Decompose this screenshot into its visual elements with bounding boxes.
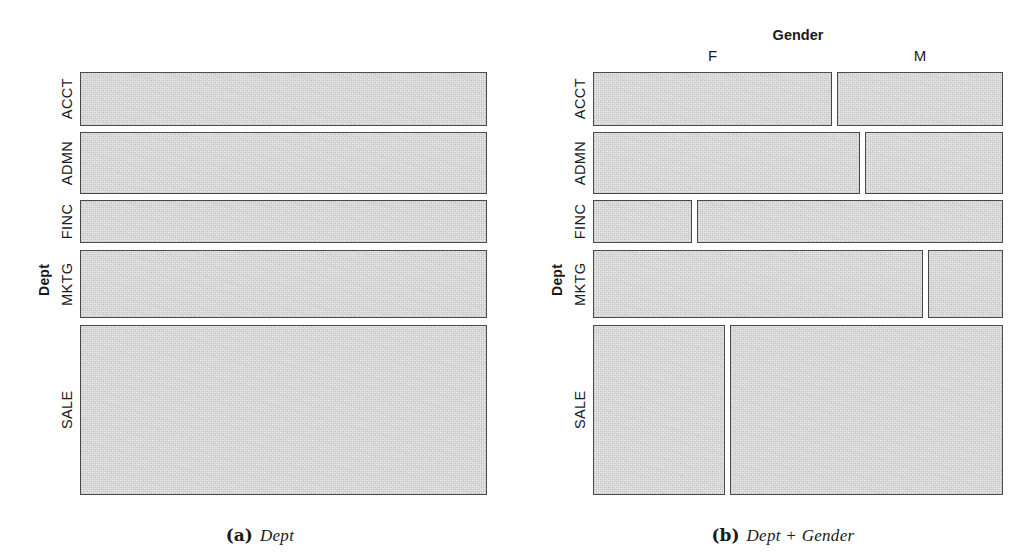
mosaic-tile-acct bbox=[80, 72, 487, 126]
mosaic-tile-admn bbox=[80, 132, 487, 194]
caption-text-a: Dept bbox=[253, 526, 294, 545]
panel-dept: Dept (a)Dept ACCTADMNFINCMKTGSALE bbox=[20, 0, 500, 556]
x-tick-m: M bbox=[900, 47, 940, 64]
y-tick-sale: SALE bbox=[58, 325, 76, 495]
caption-tag-b: (b) bbox=[712, 525, 740, 545]
mosaic-row-acct bbox=[80, 72, 487, 126]
mosaic-tile-sale-m bbox=[730, 325, 1003, 495]
mosaic-tile-mktg bbox=[80, 250, 487, 318]
mosaic-tile-acct-f bbox=[593, 72, 832, 126]
panel-dept-gender: Dept Gender (b)Dept + Gender ACCTADMNFIN… bbox=[533, 0, 1033, 556]
y-tick-admn: ADMN bbox=[58, 132, 76, 194]
mosaic-figure: Dept (a)Dept ACCTADMNFINCMKTGSALE Dept G… bbox=[0, 0, 1033, 556]
mosaic-row-mktg bbox=[80, 250, 487, 318]
mosaic-row-admn bbox=[593, 132, 1003, 194]
mosaic-tile-acct-m bbox=[837, 72, 1003, 126]
mosaic-row-finc bbox=[593, 200, 1003, 243]
y-tick-finc: FINC bbox=[571, 200, 589, 243]
caption-text-b: Dept + Gender bbox=[740, 526, 855, 545]
mosaic-tile-finc-m bbox=[697, 200, 1003, 243]
y-tick-sale: SALE bbox=[571, 325, 589, 495]
mosaic-tile-admn-m bbox=[865, 132, 1003, 194]
mosaic-plot-b bbox=[593, 72, 1003, 495]
mosaic-tile-mktg-f bbox=[593, 250, 923, 318]
y-tick-acct: ACCT bbox=[571, 72, 589, 126]
mosaic-tile-sale-f bbox=[593, 325, 725, 495]
y-tick-acct: ACCT bbox=[58, 72, 76, 126]
mosaic-tile-sale bbox=[80, 325, 487, 495]
caption-b: (b)Dept + Gender bbox=[533, 525, 1033, 546]
mosaic-tile-finc bbox=[80, 200, 487, 243]
mosaic-tile-admn-f bbox=[593, 132, 860, 194]
mosaic-plot-a bbox=[80, 72, 487, 495]
x-axis-title-b: Gender bbox=[593, 27, 1003, 43]
mosaic-row-sale bbox=[80, 325, 487, 495]
y-axis-title-b: Dept bbox=[549, 264, 565, 296]
mosaic-row-finc bbox=[80, 200, 487, 243]
mosaic-row-admn bbox=[80, 132, 487, 194]
caption-a: (a)Dept bbox=[20, 525, 500, 546]
y-tick-admn: ADMN bbox=[571, 132, 589, 194]
caption-tag-a: (a) bbox=[226, 525, 253, 545]
x-tick-f: F bbox=[692, 47, 732, 64]
mosaic-row-mktg bbox=[593, 250, 1003, 318]
y-tick-mktg: MKTG bbox=[58, 250, 76, 318]
mosaic-tile-mktg-m bbox=[928, 250, 1003, 318]
y-tick-finc: FINC bbox=[58, 200, 76, 243]
mosaic-tile-finc-f bbox=[593, 200, 692, 243]
mosaic-row-sale bbox=[593, 325, 1003, 495]
y-axis-title-a: Dept bbox=[36, 264, 52, 296]
mosaic-row-acct bbox=[593, 72, 1003, 126]
y-tick-mktg: MKTG bbox=[571, 250, 589, 318]
